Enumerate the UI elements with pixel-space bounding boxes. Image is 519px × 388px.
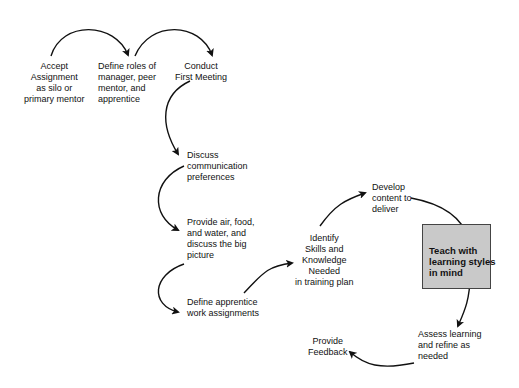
node-provide-air-food-water: Provide air, food, and water, and discus…: [187, 217, 255, 261]
node-define-roles: Define roles of manager, peer mentor, an…: [98, 61, 156, 105]
arrow-roles-to-meeting: [135, 30, 212, 56]
node-define-work-assignments: Define apprentice work assignments: [187, 297, 259, 319]
highlighted-step-box: Teach with learning styles in mind: [422, 224, 491, 289]
arrow-work-to-skills: [244, 263, 292, 293]
arrow-meeting-to-discuss: [166, 81, 190, 154]
arrow-discuss-to-provide: [158, 166, 184, 230]
arrow-assess-to-feedback: [350, 352, 414, 366]
node-assess-learning: Assess learning and refine as needed: [418, 329, 482, 362]
node-provide-feedback: Provide Feedback: [308, 336, 348, 358]
node-identify-skills: Identify Skills and Knowledge Needed in …: [295, 233, 354, 288]
arrow-provide-to-work: [158, 264, 184, 312]
node-conduct-first-meeting: Conduct First Meeting: [175, 61, 227, 83]
node-develop-content: Develop content to deliver: [372, 182, 412, 215]
arrow-accept-to-roles: [51, 30, 128, 56]
node-accept-assignment: Accept Assignment as silo or primary men…: [24, 61, 85, 105]
node-teach-learning-styles: Teach with learning styles in mind: [429, 245, 496, 278]
node-discuss-communication: Discuss communication preferences: [187, 150, 248, 183]
arrow-skills-to-develop: [320, 193, 365, 226]
